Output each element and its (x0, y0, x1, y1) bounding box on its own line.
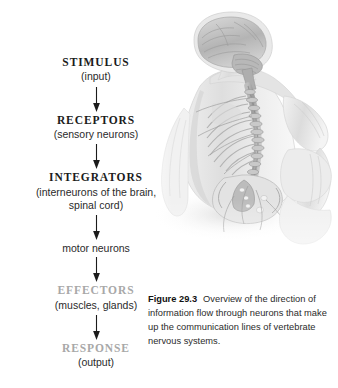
flow-node-stimulus-sub: (input) (0, 70, 192, 83)
flow-arrow-2 (0, 141, 192, 171)
figure-number: Figure 29.3 (148, 294, 197, 304)
flow-node-receptors-title: RECEPTORS (0, 114, 192, 127)
flow-node-motor-neurons: motor neurons (0, 242, 192, 254)
figure-page: STIMULUS (input) RECEPTORS (sensory neur… (0, 0, 338, 388)
flow-node-response-sub: (output) (0, 356, 192, 369)
flow-node-integrators-sub: (interneurons of the brain, spinal cord) (0, 186, 192, 213)
flow-node-integrators-title: INTEGRATORS (0, 171, 192, 184)
flow-node-integrators: INTEGRATORS (interneurons of the brain, … (0, 171, 192, 212)
flow-node-motor-neurons-label: motor neurons (0, 242, 192, 254)
flow-node-receptors: RECEPTORS (sensory neurons) (0, 114, 192, 142)
flow-arrow-4 (0, 254, 192, 284)
figure-caption: Figure 29.3Overview of the direction of … (148, 292, 330, 349)
flow-arrow-3 (0, 212, 192, 242)
flow-arrow-1 (0, 84, 192, 114)
flow-node-receptors-sub: (sensory neurons) (0, 128, 192, 141)
flow-node-stimulus-title: STIMULUS (0, 56, 192, 69)
flow-node-stimulus: STIMULUS (input) (0, 56, 192, 84)
